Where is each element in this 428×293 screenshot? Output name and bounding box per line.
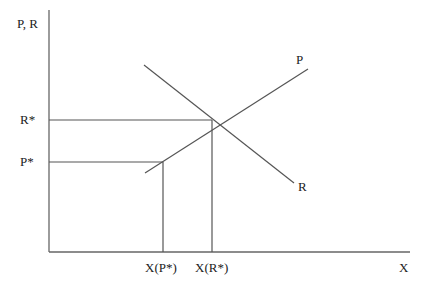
y-axis-label: P, R [17,16,38,31]
x-p-star-label: X(P*) [145,260,177,275]
price-revenue-diagram: P, R R* P* P R X(P*) X(R*) X [0,0,428,293]
r-curve-label: R [298,179,307,194]
r-star-label: R* [20,112,35,127]
x-axis-label: X [399,260,409,275]
p-star-label: P* [20,154,34,169]
x-r-star-label: X(R*) [195,260,228,275]
r-curve [144,65,294,183]
p-curve-label: P [296,52,303,67]
